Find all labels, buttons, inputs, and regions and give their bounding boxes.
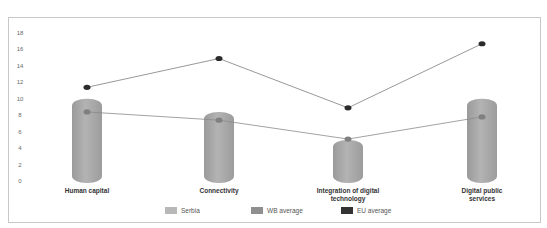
y-tick-label: 4	[18, 145, 22, 151]
category-label: Digital public	[462, 187, 503, 195]
legend-swatch-wb-average	[251, 207, 263, 214]
line-wb-average	[87, 112, 482, 139]
legend-swatch-eu-average	[341, 207, 353, 214]
serbia-bars	[72, 99, 497, 183]
marker-eu-average	[84, 85, 91, 90]
y-tick-label: 2	[18, 162, 22, 168]
marker-eu-average	[216, 56, 223, 61]
legend-swatch-serbia	[165, 207, 177, 214]
y-tick-label: 18	[17, 30, 24, 36]
y-tick-label: 8	[18, 112, 22, 118]
category-label: Human capital	[65, 187, 110, 195]
average-lines	[84, 41, 486, 142]
legend: Serbia WB average EU average	[165, 207, 392, 215]
legend-label-serbia: Serbia	[181, 207, 200, 214]
marker-wb-average	[84, 109, 91, 114]
category-label: Integration of digital	[317, 187, 380, 195]
legend-label-wb-average: WB average	[267, 207, 303, 215]
y-tick-label: 16	[17, 46, 24, 52]
marker-wb-average	[479, 114, 486, 119]
category-label: Connectivity	[199, 187, 238, 195]
y-tick-label: 10	[17, 96, 24, 102]
category-label: services	[469, 195, 495, 202]
y-tick-label: 14	[17, 63, 24, 69]
marker-wb-average	[216, 118, 223, 123]
marker-eu-average	[479, 41, 486, 46]
marker-eu-average	[345, 105, 352, 110]
y-tick-label: 12	[17, 79, 24, 85]
y-tick-label: 6	[18, 129, 22, 135]
legend-label-eu-average: EU average	[357, 207, 392, 215]
bar-serbia	[467, 99, 497, 183]
line-eu-average	[87, 44, 482, 108]
y-axis: 024681012141618	[17, 30, 24, 184]
y-tick-label: 0	[18, 178, 22, 184]
x-axis-labels: Human capitalConnectivityIntegration of …	[65, 187, 503, 203]
marker-wb-average	[345, 136, 352, 141]
category-label: technology	[331, 195, 366, 203]
chart: 024681012141618 Human capitalConnectivit…	[0, 0, 547, 228]
bar-serbia	[333, 140, 363, 183]
